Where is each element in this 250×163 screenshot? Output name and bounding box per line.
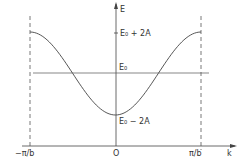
- x-tick-pi-b: π/b: [189, 149, 202, 158]
- x-tick-neg-pi-b: −π/b: [15, 149, 34, 158]
- e-axis-arrow-icon: [114, 2, 118, 9]
- dispersion-curve: [30, 32, 201, 115]
- e-axis-label: E: [120, 5, 125, 14]
- level-middle-label: E₀: [119, 63, 127, 72]
- origin-label: O: [113, 149, 119, 158]
- level-bottom-label: E₀ − 2A: [119, 117, 150, 126]
- band-diagram: E E₀ + 2A E₀ E₀ − 2A −π/b O π/b k: [0, 0, 250, 163]
- k-axis-label: k: [227, 149, 232, 158]
- level-top-label: E₀ + 2A: [120, 29, 151, 38]
- k-axis-arrow-icon: [230, 144, 237, 148]
